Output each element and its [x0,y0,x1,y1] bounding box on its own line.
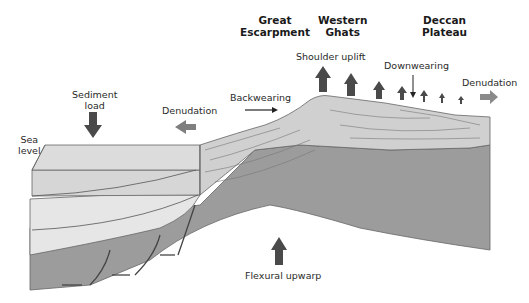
label-flexural-upwarp: Flexural upwarp [245,271,321,282]
sea-block-top [32,145,200,170]
label-sea-level: Sealevel [18,135,41,156]
label-sediment-load: Sedimentload [72,90,117,111]
label-denudation-left: Denudation [162,106,217,117]
heading-deccan-plateau: DeccanPlateau [422,15,467,39]
sediment-load-arrow [84,112,102,138]
denudation-right-arrow [480,90,498,104]
heading-great-escarpment: GreatEscarpment [240,15,310,39]
label-backwearing: Backwearing [230,93,291,104]
block-diagram-graphic [0,0,529,303]
label-downwearing: Downwearing [384,61,449,72]
label-denudation-right: Denudation [462,78,517,89]
denudation-left-arrow [175,120,196,134]
sediment-layer-upper [32,170,200,196]
label-shoulder-uplift: Shoulder uplift [296,52,366,63]
diagram-canvas: GreatEscarpment WesternGhats DeccanPlate… [0,0,529,303]
heading-western-ghats: WesternGhats [318,15,367,39]
